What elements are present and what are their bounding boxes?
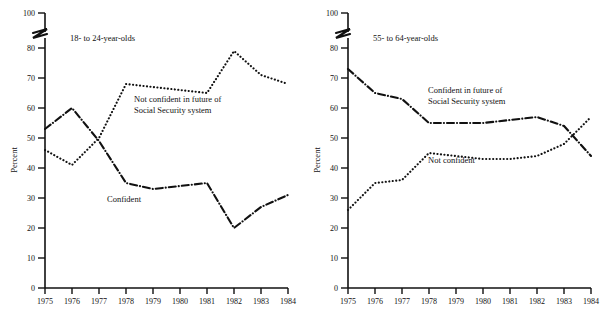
x-tick-label: 1982 — [529, 297, 545, 306]
x-tick-label: 1984 — [280, 297, 296, 306]
x-tick-label: 1980 — [172, 297, 188, 306]
y-tick-label: 70 — [330, 74, 338, 83]
panel-title-left: 18- to 24-year-olds — [70, 33, 135, 43]
y-tick-label: 0 — [31, 284, 35, 293]
y-tick-label: 100 — [23, 9, 35, 18]
series-label-not-confident-left: Not confident in future of — [134, 94, 222, 104]
y-tick-label: 30 — [330, 194, 338, 203]
x-tick-label: 1983 — [556, 297, 572, 306]
x-tick-label: 1983 — [253, 297, 269, 306]
plot-lines-left — [45, 51, 288, 228]
series-label-not-confident-left-line2: Social Security system — [134, 105, 212, 115]
y-axis-title-left: Percent — [9, 147, 19, 173]
x-tick-label: 1976 — [64, 297, 80, 306]
y-tick-label: 70 — [27, 74, 35, 83]
y-tick-label: 10 — [330, 254, 338, 263]
chart-svg-left: 01020304050607080100 1975197619771978197… — [0, 0, 303, 323]
y-tick-label: 30 — [27, 194, 35, 203]
y-tick-label: 80 — [330, 44, 338, 53]
axis-break-right — [336, 29, 350, 38]
y-tick-label: 20 — [27, 224, 35, 233]
series-label-confident-right-line2: Social Security system — [428, 96, 506, 106]
x-tick-label: 1984 — [583, 297, 599, 306]
x-tick-label: 1977 — [91, 297, 107, 306]
y-axis-right: 01020304050607080100 — [326, 9, 348, 293]
y-tick-label: 0 — [334, 284, 338, 293]
y-tick-label: 50 — [330, 134, 338, 143]
chart-panel-18-to-24: 01020304050607080100 1975197619771978197… — [0, 0, 303, 323]
x-tick-label: 1978 — [421, 297, 437, 306]
y-tick-label: 10 — [27, 254, 35, 263]
x-tick-label: 1979 — [448, 297, 464, 306]
x-tick-label: 1981 — [502, 297, 518, 306]
x-tick-label: 1979 — [145, 297, 161, 306]
series-line-dash-dot — [348, 69, 591, 156]
series-line-dash-dot — [45, 108, 288, 228]
x-tick-label: 1981 — [199, 297, 215, 306]
x-axis-right: 1975197619771978197919801981198219831984 — [340, 288, 599, 306]
panel-title-right: 55- to 64-year-olds — [373, 33, 438, 43]
chart-svg-right: 01020304050607080100 1975197619771978197… — [303, 0, 606, 323]
x-tick-label: 1977 — [394, 297, 410, 306]
y-tick-label: 100 — [326, 9, 338, 18]
y-tick-label: 40 — [27, 164, 35, 173]
chart-panel-55-to-64: 01020304050607080100 1975197619771978197… — [303, 0, 606, 323]
series-label-not-confident-right: Not confident — [428, 155, 476, 165]
x-tick-label: 1982 — [226, 297, 242, 306]
series-label-confident-right: Confident in future of — [428, 85, 503, 95]
x-tick-label: 1978 — [118, 297, 134, 306]
x-tick-label: 1976 — [367, 297, 383, 306]
y-axis-left: 01020304050607080100 — [23, 9, 45, 293]
x-tick-label: 1975 — [340, 297, 356, 306]
x-tick-label: 1980 — [475, 297, 491, 306]
y-tick-label: 60 — [330, 104, 338, 113]
y-tick-label: 50 — [27, 134, 35, 143]
two-panel-line-chart-figure: 01020304050607080100 1975197619771978197… — [0, 0, 606, 323]
series-label-confident-left: Confident — [107, 194, 142, 204]
axis-break-left — [33, 29, 47, 38]
x-axis-left: 1975197619771978197919801981198219831984 — [37, 288, 296, 306]
y-tick-label: 60 — [27, 104, 35, 113]
x-tick-label: 1975 — [37, 297, 53, 306]
y-tick-label: 20 — [330, 224, 338, 233]
y-tick-label: 80 — [27, 44, 35, 53]
y-tick-label: 40 — [330, 164, 338, 173]
y-axis-title-right: Percent — [312, 147, 322, 173]
